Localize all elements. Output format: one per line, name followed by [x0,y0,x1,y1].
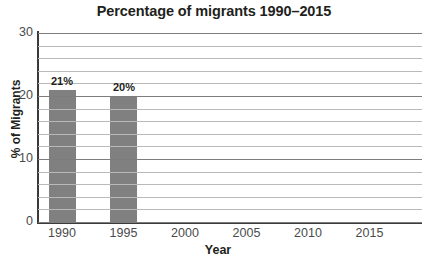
x-axis-title: Year [158,243,278,257]
gridline [38,209,422,210]
gridline [38,172,422,173]
gridline [38,222,422,223]
gridline [38,109,422,110]
gridline [38,146,422,147]
x-tick-2005: 2005 [217,226,277,240]
chart-title: Percentage of migrants 1990–2015 [0,3,428,19]
y-axis-title: % of Migrants [9,59,23,179]
x-tick-1990: 1990 [32,226,92,240]
gridline [38,46,422,47]
gridline [38,134,422,135]
gridline [38,96,422,97]
x-tick-2010: 2010 [278,226,338,240]
bar-chart: Percentage of migrants 1990–2015 21%20% … [0,0,428,261]
x-tick-2015: 2015 [340,226,400,240]
y-tick-0: 0 [3,214,33,228]
x-tick-2000: 2000 [155,226,215,240]
gridline [38,197,422,198]
gridline [38,71,422,72]
gridline [38,58,422,59]
bar-value-label: 20% [94,81,154,93]
gridline [38,184,422,185]
x-tick-1995: 1995 [94,226,154,240]
gridline [38,159,422,160]
gridline [38,121,422,122]
plot-area: 21%20% [38,33,422,222]
y-tick-30: 30 [3,25,33,39]
gridline [38,33,422,34]
bar-value-label: 21% [32,75,92,87]
